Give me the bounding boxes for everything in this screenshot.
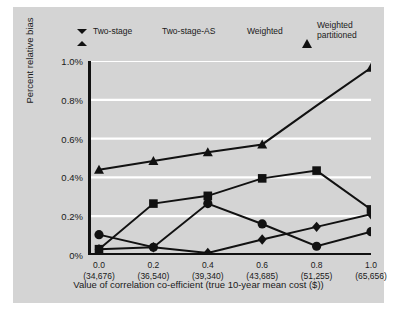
data-point-circle (149, 243, 158, 252)
data-point-square (367, 205, 371, 214)
legend-label: Two-stage (93, 27, 132, 37)
legend-item-weighted[interactable]: Weighted (231, 27, 283, 39)
series-line (99, 171, 371, 250)
series-square (95, 166, 371, 253)
data-point-circle (203, 199, 212, 208)
data-point-triangle (366, 63, 371, 72)
triangle-marker-icon (301, 22, 313, 34)
square-marker-icon (231, 28, 243, 40)
data-point-circle (312, 242, 321, 251)
y-tick-label: 0.4% (43, 172, 83, 183)
diamond-marker-icon (77, 28, 89, 40)
legend-label: Two-stage-AS (162, 27, 215, 37)
series-circle (94, 199, 371, 252)
chart-legend: Two-stage Two-stage-AS Weighted Weighted… (13, 21, 384, 53)
data-point-square (312, 166, 321, 175)
data-point-square (149, 199, 158, 208)
y-tick-label: 0.8% (43, 94, 83, 105)
y-tick-label: 0.2% (43, 211, 83, 222)
series-canvas (88, 61, 371, 255)
circle-marker-icon (146, 28, 158, 40)
legend-item-two-stage-as[interactable]: Two-stage-AS (146, 27, 215, 39)
data-point-square (258, 174, 267, 183)
y-axis-title: Percent relative bias (24, 1, 35, 121)
data-point-circle (258, 219, 267, 228)
data-point-square (95, 245, 104, 254)
series-triangle (94, 63, 371, 174)
data-point-diamond (312, 222, 321, 232)
series-line (99, 214, 371, 253)
y-tick-label: 0.6% (43, 133, 83, 144)
legend-item-weighted-partitioned[interactable]: Weighted partitioned (301, 21, 357, 40)
y-tick-label: 1.0% (43, 56, 83, 67)
legend-item-two-stage[interactable]: Two-stage (77, 27, 132, 39)
legend-label: Weighted partitioned (317, 21, 357, 40)
data-point-square (204, 192, 213, 201)
data-point-circle (366, 227, 371, 236)
chart-figure: Two-stage Two-stage-AS Weighted Weighted… (13, 7, 384, 303)
series-line (99, 68, 371, 170)
y-tick-label: 0% (43, 250, 83, 261)
legend-label: Weighted (247, 27, 283, 37)
x-axis-title: Value of correlation co-efficient (true … (13, 279, 384, 290)
data-point-circle (94, 230, 103, 239)
series-line (99, 204, 371, 248)
data-point-diamond (258, 234, 267, 244)
plot-area (88, 61, 371, 255)
